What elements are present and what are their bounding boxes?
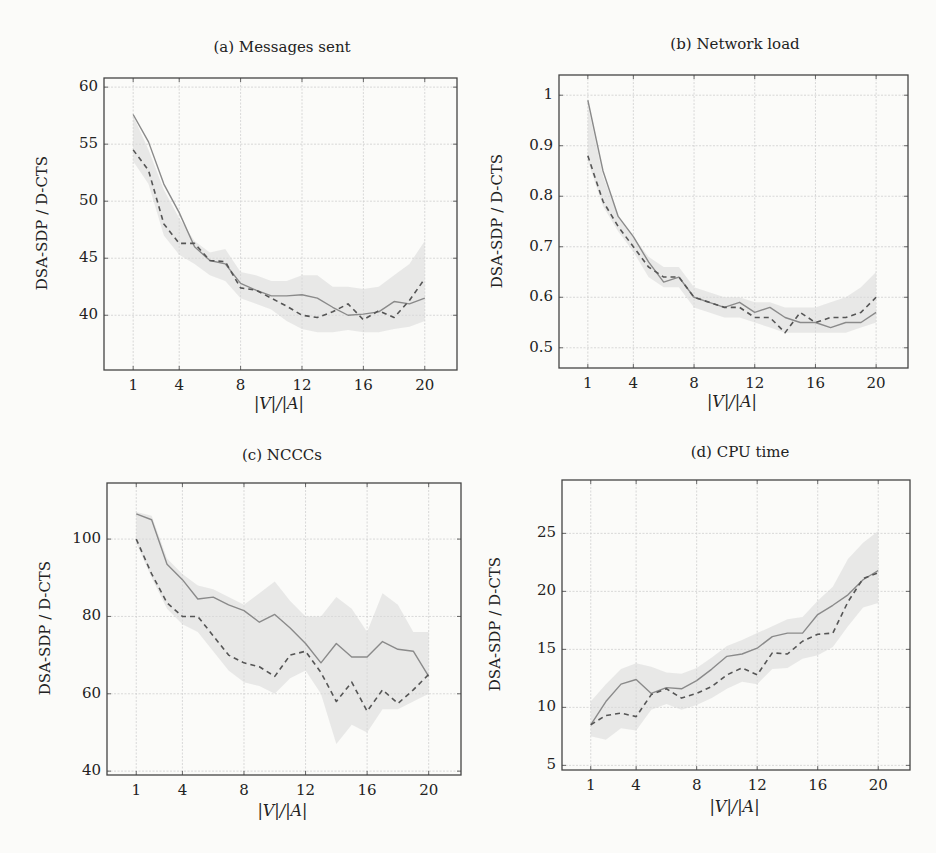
y-tick-label: 25 [506,523,556,541]
x-tick-label: 12 [735,374,775,392]
x-tick-label: 8 [677,776,717,794]
x-tick-label: 20 [858,776,898,794]
y-tick-label: 40 [48,305,98,323]
x-tick-label: 16 [347,781,387,799]
confidence-band [591,531,878,740]
x-tick-label: 20 [405,376,445,394]
y-tick-label: 50 [48,191,98,209]
x-tick-label: 20 [409,781,449,799]
x-tick-label: 12 [282,376,322,394]
x-tick-label: 1 [568,374,608,392]
x-tick-label: 8 [674,374,714,392]
x-tick-label: 4 [616,776,656,794]
x-tick-label: 16 [795,374,835,392]
x-tick-label: 8 [224,781,264,799]
x-tick-label: 20 [856,374,896,392]
y-tick-label: 45 [48,248,98,266]
x-tick-label: 4 [613,374,653,392]
y-axis-label: DSA-SDP / D-CTS [488,131,506,311]
y-axis-label: DSA-SDP / D-CTS [486,534,504,714]
x-tick-label: 8 [221,376,261,394]
panel-title: (a) Messages sent [132,38,432,56]
y-tick-label: 0.8 [503,186,553,204]
x-tick-label: 12 [737,776,777,794]
x-tick-label: 16 [798,776,838,794]
x-tick-label: 1 [571,776,611,794]
y-tick-label: 10 [506,697,556,715]
y-axis-label: DSA-SDP / D-CTS [33,133,51,313]
panel-title: (d) CPU time [590,443,890,461]
y-tick-label: 80 [51,606,101,624]
y-tick-label: 0.9 [503,136,553,154]
x-tick-label: 12 [286,781,326,799]
x-tick-label: 4 [162,781,202,799]
x-axis-label: |V|/|A| [219,394,339,413]
y-tick-label: 5 [506,755,556,773]
y-tick-label: 1 [503,85,553,103]
y-tick-label: 0.5 [503,338,553,356]
panel-title: (c) NCCCs [132,446,432,464]
y-tick-label: 60 [48,77,98,95]
x-tick-label: 1 [116,781,156,799]
y-tick-label: 60 [51,684,101,702]
y-tick-label: 0.6 [503,287,553,305]
plot-area [0,0,936,853]
y-tick-label: 100 [51,529,101,547]
x-axis-label: |V|/|A| [674,797,794,816]
x-tick-label: 4 [159,376,199,394]
panel-title: (b) Network load [585,35,885,53]
y-tick-label: 55 [48,134,98,152]
x-axis-label: |V|/|A| [222,801,342,820]
x-tick-label: 16 [343,376,383,394]
y-axis-label: DSA-SDP / D-CTS [36,538,54,718]
y-tick-label: 40 [51,761,101,779]
x-axis-label: |V|/|A| [672,392,792,411]
y-tick-label: 15 [506,639,556,657]
y-tick-label: 20 [506,581,556,599]
x-tick-label: 1 [113,376,153,394]
y-tick-label: 0.7 [503,237,553,255]
